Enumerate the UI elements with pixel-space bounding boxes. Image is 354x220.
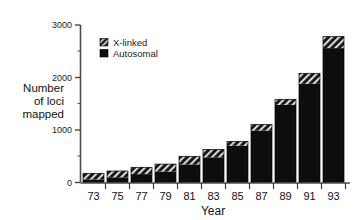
x-tick-label-89: 89 [279,190,291,202]
y-tick-label-0: 0 [67,178,72,188]
bar-autosomal-73 [83,179,104,182]
x-tick-label-81: 81 [183,190,195,202]
x-tick-label-87: 87 [255,190,267,202]
legend-swatch-x-linked [100,39,108,47]
bar-group-89 [275,99,296,182]
bar-group-83 [203,149,224,182]
x-tick-label-83: 83 [207,190,219,202]
y-axis-title-line-1: Number [23,82,64,94]
bar-autosomal-91 [299,84,320,183]
bar-autosomal-87 [251,131,272,183]
y-axis-title-line-2: of loci [34,95,64,107]
bar-group-77 [131,167,152,182]
x-tick-label-79: 79 [159,190,171,202]
x-tick-label-75: 75 [111,190,123,202]
bar-xlinked-81 [179,156,200,164]
bar-group-93 [323,37,344,183]
bar-group-75 [107,171,128,183]
x-tick-label-93: 93 [327,190,339,202]
bar-group-79 [155,164,176,182]
bar-xlinked-73 [83,173,104,179]
bar-group-81 [179,156,200,182]
bar-xlinked-91 [299,73,320,84]
x-tick-label-77: 77 [135,190,147,202]
chart-figure: 0 1000 2000 3000 Number of loci mapped [0,0,354,220]
bar-group-85 [227,142,248,183]
stacked-bar-chart: 0 1000 2000 3000 Number of loci mapped [0,0,354,220]
legend-swatch-autosomal [100,50,108,58]
bar-group-91 [299,73,320,182]
legend-label-x-linked: X-linked [113,37,147,48]
bar-group-73 [83,173,104,182]
x-tick-label-73: 73 [87,190,99,202]
bar-xlinked-77 [131,167,152,174]
bar-group-87 [251,125,272,183]
bar-xlinked-93 [323,37,344,49]
x-tick-label-85: 85 [231,190,243,202]
y-axis-title-line-3: mapped [22,108,64,120]
bar-autosomal-75 [107,177,128,182]
x-tick-label-91: 91 [303,190,315,202]
bar-xlinked-87 [251,125,272,131]
bar-autosomal-79 [155,172,176,183]
bar-xlinked-83 [203,149,224,157]
bar-xlinked-79 [155,164,176,171]
bar-autosomal-85 [227,146,248,183]
bar-autosomal-77 [131,174,152,182]
legend-label-autosomal: Autosomal [113,48,158,59]
bar-xlinked-75 [107,171,128,177]
x-axis-title: Year [201,204,225,218]
bar-autosomal-81 [179,164,200,182]
bar-xlinked-89 [275,99,296,105]
y-tick-label-1000: 1000 [52,125,72,135]
bar-xlinked-85 [227,142,248,146]
bar-autosomal-93 [323,48,344,182]
y-tick-label-3000: 3000 [52,20,72,30]
bar-autosomal-89 [275,105,296,183]
bar-autosomal-83 [203,157,224,182]
